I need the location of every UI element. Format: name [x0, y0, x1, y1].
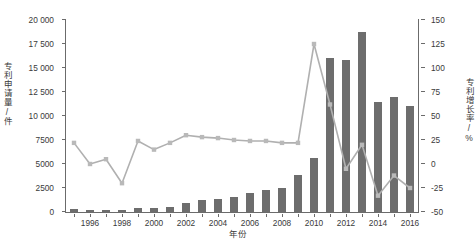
x-tick-mark	[74, 214, 75, 217]
line-marker	[168, 141, 172, 145]
y-right-tick-label: 150	[431, 15, 445, 25]
y-right-tick-label: 25	[431, 135, 440, 145]
x-tick-mark	[266, 214, 267, 217]
chart-figure: 专利申请量/件 专利增长率/% 年份 025005000750010 00012…	[0, 0, 475, 249]
line-marker	[312, 42, 316, 46]
line-marker	[200, 135, 204, 139]
x-axis-ticks: 1996199820002002200420062008201020122014…	[66, 214, 418, 228]
x-tick-mark	[346, 214, 347, 217]
y-right-tick-mark	[421, 139, 425, 140]
y-axis-right-line	[418, 19, 419, 213]
line-marker	[72, 141, 76, 145]
x-tick-label: 2004	[209, 218, 227, 228]
y-left-tick-label: 5000	[36, 159, 54, 169]
y-right-tick-mark	[421, 211, 425, 212]
growth-rate-line	[74, 44, 410, 196]
x-tick-label: 2012	[337, 218, 355, 228]
y-axis-right-ticks: -50-250255075100125150	[421, 20, 461, 212]
line-marker	[88, 162, 92, 166]
line-marker	[120, 181, 124, 185]
line-marker	[392, 173, 396, 177]
y-right-tick-mark	[421, 163, 425, 164]
line-marker	[296, 141, 300, 145]
line-marker	[360, 143, 364, 147]
y-right-tick-label: 50	[431, 111, 440, 121]
x-tick-mark	[154, 214, 155, 217]
y-right-tick-mark	[421, 43, 425, 44]
y-left-tick-label: 2500	[36, 183, 54, 193]
x-tick-label: 1996	[81, 218, 99, 228]
x-tick-mark	[314, 214, 315, 217]
x-tick-mark	[330, 214, 331, 217]
y-left-tick-label: 12 500	[29, 87, 54, 97]
x-tick-mark	[250, 214, 251, 217]
y-right-tick-label: 100	[431, 63, 445, 73]
x-tick-mark	[410, 214, 411, 217]
x-tick-mark	[282, 214, 283, 217]
x-tick-label: 2010	[305, 218, 323, 228]
y-right-tick-label: 0	[431, 159, 436, 169]
y-axis-right-title: 专利增长率/%	[463, 78, 475, 143]
y-right-tick-label: 75	[431, 87, 440, 97]
x-tick-label: 2016	[401, 218, 419, 228]
x-tick-mark	[90, 214, 91, 217]
line-marker	[136, 139, 140, 143]
x-tick-mark	[394, 214, 395, 217]
x-tick-label: 2006	[241, 218, 259, 228]
x-tick-mark	[234, 214, 235, 217]
y-left-tick-label: 20 000	[29, 15, 54, 25]
line-marker	[376, 193, 380, 197]
x-tick-mark	[138, 214, 139, 217]
line-marker	[248, 139, 252, 143]
line-marker	[232, 138, 236, 142]
y-right-tick-label: 125	[431, 39, 445, 49]
x-tick-mark	[106, 214, 107, 217]
y-right-tick-label: -50	[431, 207, 443, 217]
x-tick-label: 2000	[145, 218, 163, 228]
line-series	[66, 20, 418, 212]
y-right-tick-mark	[421, 67, 425, 68]
growth-rate-markers	[72, 42, 412, 198]
y-right-tick-label: -25	[431, 183, 443, 193]
y-right-tick-mark	[421, 187, 425, 188]
x-tick-mark	[362, 214, 363, 217]
x-tick-mark	[298, 214, 299, 217]
line-marker	[344, 167, 348, 171]
y-left-tick-label: 0	[49, 207, 54, 217]
y-left-tick-label: 15 000	[29, 63, 54, 73]
y-right-tick-mark	[421, 19, 425, 20]
x-tick-label: 2002	[177, 218, 195, 228]
y-axis-left-ticks: 025005000750010 00012 50015 00017 50020 …	[0, 20, 62, 212]
y-left-tick-label: 10 000	[29, 111, 54, 121]
line-marker	[328, 102, 332, 106]
x-tick-label: 2008	[273, 218, 291, 228]
x-axis-line	[65, 212, 419, 213]
y-right-tick-mark	[421, 91, 425, 92]
x-tick-mark	[186, 214, 187, 217]
line-marker	[216, 136, 220, 140]
x-axis-title: 年份	[0, 227, 475, 239]
plot-area	[66, 20, 418, 212]
y-left-tick-label: 7500	[36, 135, 54, 145]
x-tick-mark	[202, 214, 203, 217]
line-marker	[408, 186, 412, 190]
line-marker	[104, 157, 108, 161]
line-marker	[184, 133, 188, 137]
x-tick-label: 1998	[113, 218, 131, 228]
y-left-tick-label: 17 500	[29, 39, 54, 49]
x-tick-mark	[378, 214, 379, 217]
x-tick-mark	[170, 214, 171, 217]
line-marker	[280, 141, 284, 145]
x-tick-mark	[122, 214, 123, 217]
line-marker	[264, 139, 268, 143]
line-marker	[152, 147, 156, 151]
y-right-tick-mark	[421, 115, 425, 116]
x-tick-mark	[218, 214, 219, 217]
x-tick-label: 2014	[369, 218, 387, 228]
